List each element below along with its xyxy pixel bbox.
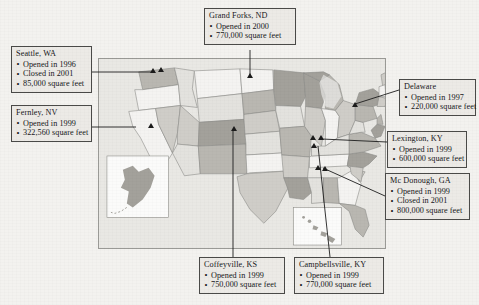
callout-title: Lexington, KY (392, 134, 462, 144)
state-de-md (371, 124, 385, 138)
state-la (284, 178, 312, 200)
callout-line: 750,000 square feet (204, 280, 280, 290)
state-mo (280, 126, 312, 157)
callout-lines: Opened in 1999 770,000 square feet (299, 271, 379, 290)
callout-line: 800,000 square feet (390, 206, 465, 216)
state-ny (355, 89, 381, 107)
callout-title: Delaware (404, 82, 471, 92)
callout-campbellsville-ky[interactable]: Campbellsville, KY Opened in 1999 770,00… (294, 257, 384, 294)
callout-fernley-nv[interactable]: Fernley, NV Opened in 1999 322,560 squar… (11, 105, 92, 142)
callout-lines: Opened in 1999 Closed in 2001 800,000 sq… (390, 187, 465, 216)
triangle-marker-campbellsville (311, 143, 317, 148)
callout-line: 220,000 square feet (404, 102, 471, 112)
state-ks (245, 131, 282, 155)
state-nm (198, 144, 247, 174)
callout-lexington-ky[interactable]: Lexington, KY Opened in 1999 600,000 squ… (387, 131, 467, 168)
state-ut (177, 106, 199, 147)
triangle-marker-delaware (352, 102, 358, 107)
callout-line: Opened in 1997 (404, 93, 471, 103)
callout-lines: Opened in 2000 770,000 square feet (209, 22, 291, 41)
callout-line: 85,000 square feet (16, 79, 87, 89)
callout-lines: Opened in 1996 Closed in 2001 85,000 squ… (16, 60, 87, 89)
callout-line: Opened in 1999 (204, 271, 280, 281)
state-mn (274, 70, 306, 107)
callout-line: Opened in 2000 (209, 22, 291, 32)
triangle-marker-lexington-b (318, 135, 324, 140)
callout-title: Fernley, NV (16, 108, 87, 118)
callout-title: Grand Forks, ND (209, 11, 291, 21)
callout-mc-donough-ga[interactable]: Mc Donough, GA Opened in 1999 Closed in … (385, 173, 470, 220)
triangle-marker-coffeyville (231, 126, 237, 131)
state-sd (242, 90, 276, 115)
triangle-marker-seattle-b (158, 67, 164, 72)
state-nc (347, 152, 377, 168)
state-az (172, 144, 200, 176)
callout-line: Opened in 1999 (16, 119, 87, 129)
state-nj (377, 114, 383, 124)
callout-grand-forks-nd[interactable]: Grand Forks, ND Opened in 2000 770,000 s… (204, 8, 296, 45)
callout-line: 322,560 square feet (16, 128, 87, 138)
state-ar (282, 155, 310, 178)
callout-lines: Opened in 1999 600,000 square feet (392, 145, 462, 164)
callout-coffeyville-ks[interactable]: Coffeyville, KS Opened in 1999 750,000 s… (199, 257, 285, 294)
us-map-panel: .st { stroke:#8d8d89; stroke-width:0.6; … (98, 58, 386, 249)
callout-line: Opened in 1999 (390, 187, 465, 197)
triangle-marker-lexington-a (310, 135, 316, 140)
callout-line: Opened in 1999 (392, 145, 462, 155)
state-vt-nh (379, 85, 385, 97)
hawaii-island-2 (308, 220, 312, 224)
callout-title: Mc Donough, GA (390, 176, 465, 186)
callout-line: Opened in 1996 (16, 60, 87, 70)
callout-line: Closed in 2001 (390, 196, 465, 206)
state-co (198, 119, 246, 146)
triangle-marker-mc-donough-b (322, 166, 328, 171)
triangle-marker-mc-donough-a (315, 165, 321, 170)
hawaii-island-1 (302, 216, 305, 219)
state-wy (197, 94, 244, 123)
figure-root: .st { stroke:#8d8d89; stroke-width:0.6; … (0, 0, 479, 305)
callout-line: 770,000 square feet (299, 280, 379, 290)
state-fl (339, 203, 369, 237)
triangle-marker-seattle-a (150, 68, 156, 73)
us-map-svg: .st { stroke:#8d8d89; stroke-width:0.6; … (99, 59, 385, 248)
state-ne (244, 110, 280, 134)
state-nd (240, 69, 274, 94)
callout-line: 770,000 square feet (209, 31, 291, 41)
callout-title: Seattle, WA (16, 49, 87, 59)
callout-title: Campbellsville, KY (299, 260, 379, 270)
state-al (323, 178, 339, 204)
callout-lines: Opened in 1999 750,000 square feet (204, 271, 280, 290)
state-ia (276, 106, 305, 129)
callout-line: Closed in 2001 (16, 69, 87, 79)
callout-lines: Opened in 1997 220,000 square feet (404, 93, 471, 112)
triangle-marker-grand-forks (247, 73, 253, 78)
state-tx (237, 171, 290, 223)
triangle-marker-fernley (148, 123, 154, 128)
state-pa (355, 105, 377, 123)
callout-line: 600,000 square feet (392, 154, 462, 164)
callout-title: Coffeyville, KS (204, 260, 280, 270)
callout-seattle-wa[interactable]: Seattle, WA Opened in 1996 Closed in 200… (11, 46, 92, 93)
callout-line: Opened in 1999 (299, 271, 379, 281)
callout-delaware[interactable]: Delaware Opened in 1997 220,000 square f… (399, 79, 476, 116)
callout-lines: Opened in 1999 322,560 square feet (16, 119, 87, 138)
